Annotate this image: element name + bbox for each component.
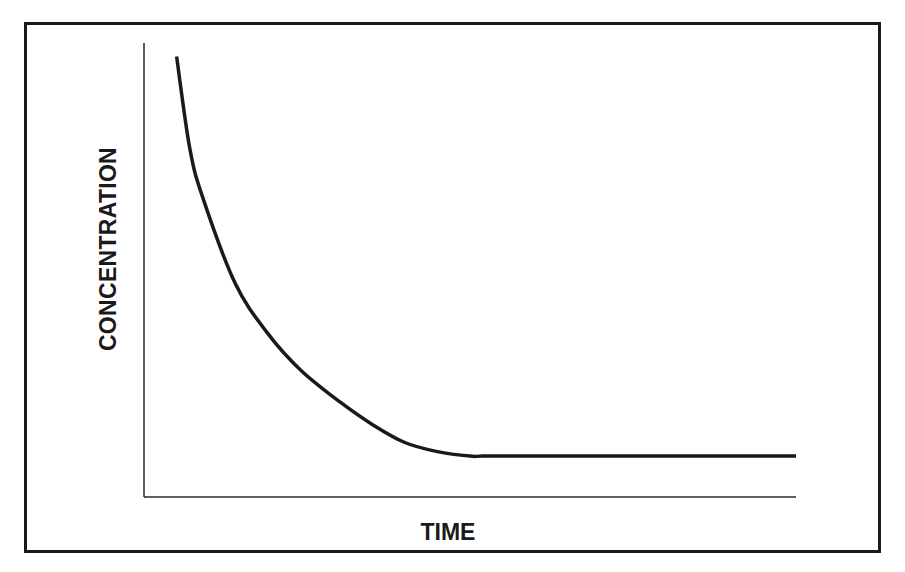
x-axis-label: TIME (421, 519, 476, 546)
concentration-curve (177, 57, 796, 457)
y-axis-label: CONCENTRATION (95, 147, 122, 351)
plot-area (0, 0, 905, 572)
